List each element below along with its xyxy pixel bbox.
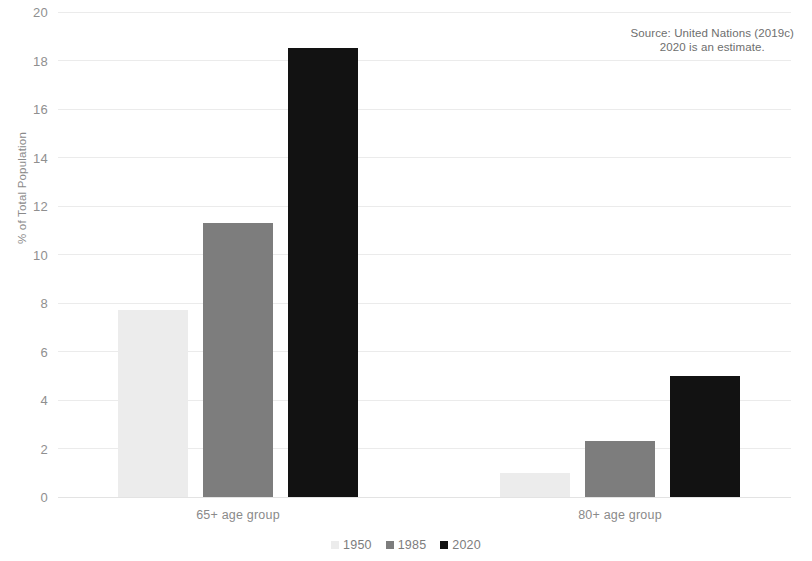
y-axis-tick-label: 14: [6, 150, 48, 165]
bar-1950-80-age-group: [500, 473, 570, 497]
plot-area: 02468101214161820: [58, 12, 791, 497]
y-axis-tick-label: 16: [6, 102, 48, 117]
y-axis-tick-label: 20: [6, 5, 48, 20]
gridline: [58, 12, 791, 13]
x-axis-category-label: 65+ age group: [118, 508, 358, 522]
gridline: [58, 254, 791, 255]
gridline: [58, 157, 791, 158]
y-axis-tick-label: 8: [6, 296, 48, 311]
source-note-line-2: 2020 is an estimate.: [631, 40, 794, 54]
source-note: Source: United Nations (2019c) 2020 is a…: [631, 26, 794, 54]
legend-item-1985[interactable]: 1985: [386, 538, 427, 552]
y-axis-tick-label: 10: [6, 247, 48, 262]
y-axis-tick-label: 6: [6, 344, 48, 359]
y-axis-tick-label: 18: [6, 53, 48, 68]
legend-label: 1950: [343, 538, 372, 552]
legend-label: 2020: [452, 538, 481, 552]
x-axis-category-label: 80+ age group: [500, 508, 740, 522]
y-axis-tick-label: 12: [6, 199, 48, 214]
legend-item-1950[interactable]: 1950: [331, 538, 372, 552]
chart-canvas: % of Total Population 02468101214161820 …: [0, 0, 812, 561]
legend-item-2020[interactable]: 2020: [440, 538, 481, 552]
gridline: [58, 303, 791, 304]
legend-swatch-icon: [331, 541, 339, 549]
chart-legend: 195019852020: [0, 538, 812, 552]
bar-1985-65-age-group: [203, 223, 273, 497]
gridline: [58, 206, 791, 207]
legend-swatch-icon: [386, 541, 394, 549]
source-note-line-1: Source: United Nations (2019c): [631, 26, 794, 40]
bar-1985-80-age-group: [585, 441, 655, 497]
bar-2020-65-age-group: [288, 48, 358, 497]
bar-2020-80-age-group: [670, 376, 740, 497]
y-axis-tick-label: 2: [6, 441, 48, 456]
legend-swatch-icon: [440, 541, 448, 549]
legend-label: 1985: [398, 538, 427, 552]
y-axis-tick-label: 0: [6, 490, 48, 505]
gridline: [58, 60, 791, 61]
y-axis-tick-label: 4: [6, 393, 48, 408]
gridline: [58, 109, 791, 110]
bar-1950-65-age-group: [118, 310, 188, 497]
